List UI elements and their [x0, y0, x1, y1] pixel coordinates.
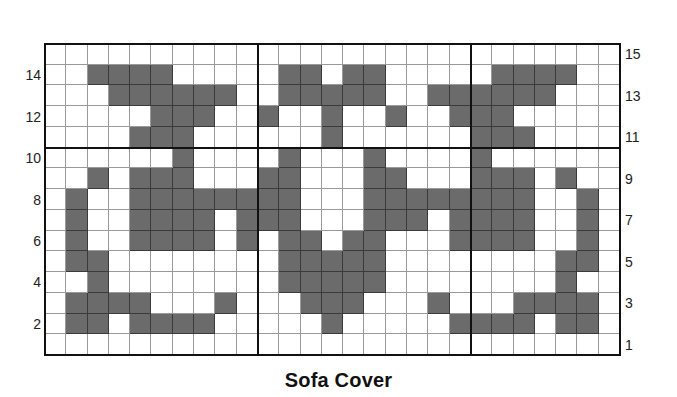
empty-cell — [130, 272, 151, 293]
empty-cell — [428, 44, 449, 65]
filled-cell — [279, 168, 300, 189]
filled-cell — [535, 85, 556, 106]
empty-cell — [599, 272, 620, 293]
empty-cell — [535, 168, 556, 189]
row-label-right: 1 — [625, 338, 633, 352]
empty-cell — [109, 168, 130, 189]
filled-cell — [364, 251, 385, 272]
empty-cell — [386, 272, 407, 293]
empty-cell — [109, 231, 130, 252]
empty-cell — [237, 44, 258, 65]
empty-cell — [258, 293, 279, 314]
empty-cell — [279, 106, 300, 127]
empty-cell — [173, 251, 194, 272]
filled-cell — [343, 293, 364, 314]
empty-cell — [450, 334, 471, 355]
filled-cell — [364, 85, 385, 106]
empty-cell — [556, 189, 577, 210]
empty-cell — [301, 334, 322, 355]
empty-cell — [322, 148, 343, 169]
empty-cell — [194, 272, 215, 293]
empty-cell — [599, 106, 620, 127]
filled-cell — [577, 293, 598, 314]
empty-cell — [301, 314, 322, 335]
empty-cell — [258, 251, 279, 272]
empty-cell — [386, 231, 407, 252]
filled-cell — [301, 85, 322, 106]
filled-cell — [514, 231, 535, 252]
filled-cell — [279, 231, 300, 252]
empty-cell — [279, 293, 300, 314]
filled-cell — [364, 272, 385, 293]
filled-cell — [471, 210, 492, 231]
filled-cell — [173, 127, 194, 148]
empty-cell — [492, 334, 513, 355]
empty-cell — [556, 231, 577, 252]
filled-cell — [556, 272, 577, 293]
empty-cell — [130, 148, 151, 169]
empty-cell — [492, 251, 513, 272]
empty-cell — [258, 85, 279, 106]
filled-cell — [194, 210, 215, 231]
row-label-right: 13 — [625, 89, 641, 103]
empty-cell — [386, 44, 407, 65]
empty-cell — [45, 314, 66, 335]
filled-cell — [151, 189, 172, 210]
empty-cell — [407, 127, 428, 148]
empty-cell — [386, 127, 407, 148]
filled-cell — [279, 210, 300, 231]
filled-cell — [514, 189, 535, 210]
empty-cell — [599, 231, 620, 252]
empty-cell — [173, 272, 194, 293]
empty-cell — [364, 293, 385, 314]
empty-cell — [237, 293, 258, 314]
filled-cell — [407, 210, 428, 231]
filled-cell — [173, 210, 194, 231]
filled-cell — [343, 65, 364, 86]
empty-cell — [428, 272, 449, 293]
empty-cell — [556, 148, 577, 169]
filled-cell — [88, 168, 109, 189]
filled-cell — [492, 314, 513, 335]
empty-cell — [514, 334, 535, 355]
empty-cell — [109, 334, 130, 355]
filled-cell — [471, 85, 492, 106]
filled-cell — [130, 314, 151, 335]
empty-cell — [237, 334, 258, 355]
empty-cell — [45, 189, 66, 210]
empty-cell — [173, 293, 194, 314]
empty-cell — [130, 251, 151, 272]
filled-cell — [66, 293, 87, 314]
empty-cell — [577, 148, 598, 169]
filled-cell — [151, 210, 172, 231]
empty-cell — [407, 44, 428, 65]
empty-cell — [322, 210, 343, 231]
empty-cell — [514, 251, 535, 272]
filled-cell — [173, 85, 194, 106]
filled-cell — [492, 210, 513, 231]
filled-cell — [428, 189, 449, 210]
empty-cell — [343, 334, 364, 355]
filled-cell — [66, 251, 87, 272]
empty-cell — [173, 334, 194, 355]
filled-cell — [471, 231, 492, 252]
empty-cell — [45, 65, 66, 86]
filled-cell — [66, 231, 87, 252]
empty-cell — [364, 127, 385, 148]
empty-cell — [173, 65, 194, 86]
empty-cell — [428, 210, 449, 231]
empty-cell — [428, 251, 449, 272]
empty-cell — [599, 314, 620, 335]
filled-cell — [173, 168, 194, 189]
row-label-left: 8 — [33, 193, 41, 207]
empty-cell — [577, 44, 598, 65]
filled-cell — [151, 106, 172, 127]
filled-cell — [514, 85, 535, 106]
filled-cell — [194, 85, 215, 106]
empty-cell — [237, 148, 258, 169]
filled-cell — [428, 85, 449, 106]
empty-cell — [194, 65, 215, 86]
empty-cell — [535, 148, 556, 169]
empty-cell — [151, 148, 172, 169]
empty-cell — [66, 65, 87, 86]
